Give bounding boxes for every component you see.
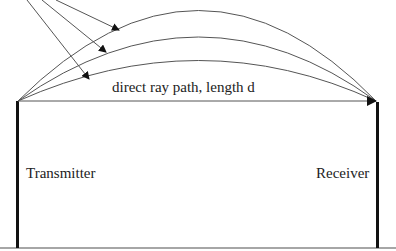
transmitter-label: Transmitter xyxy=(26,165,95,182)
arrow-icon xyxy=(42,0,106,52)
arrow-icon xyxy=(27,0,89,79)
arrow-icon xyxy=(56,0,119,30)
direct-ray-label: direct ray path, length d xyxy=(112,79,255,96)
ray-path-diagram xyxy=(0,0,396,251)
transmitter-pole xyxy=(16,101,19,248)
receiver-label: Receiver xyxy=(316,165,369,182)
receiver-pole xyxy=(376,102,379,248)
